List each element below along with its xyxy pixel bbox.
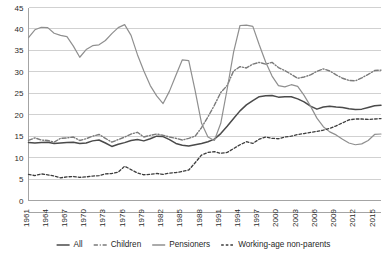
series-line	[29, 119, 382, 178]
x-tick-label: 1997	[252, 209, 261, 227]
y-tick-label: 35	[15, 46, 24, 55]
y-tick-label: 5	[19, 175, 24, 184]
x-tick-label: 1964	[41, 209, 50, 227]
axis-lines	[29, 8, 382, 213]
x-tick-label: 2009	[329, 209, 338, 227]
series-line	[29, 25, 382, 145]
x-tick-label: 1976	[118, 209, 127, 227]
x-tick-label: 2012	[348, 209, 357, 227]
x-tick-label: 2006	[310, 209, 319, 227]
x-tick-label: 2015	[368, 209, 377, 227]
x-tick-label: 1970	[79, 209, 88, 227]
x-tick-label: 2000	[271, 209, 280, 227]
y-tick-label: 10	[15, 154, 24, 163]
x-tick-label: 1982	[156, 209, 165, 227]
x-tick-label: 1967	[60, 209, 69, 227]
x-tick-label: 1973	[98, 209, 107, 227]
chart-container: 051015202530354045 196119641967197019731…	[0, 0, 387, 259]
y-axis-tick-labels: 051015202530354045	[15, 4, 24, 206]
x-axis-tick-labels: 1961196419671970197319761979198219851988…	[22, 209, 377, 227]
y-tick-label: 45	[15, 4, 24, 13]
x-tick-label: 1979	[137, 209, 146, 227]
chart-legend: AllChildrenPensionersWorking-age non-par…	[57, 240, 331, 249]
x-tick-label: 1961	[22, 209, 31, 227]
y-tick-label: 20	[15, 111, 24, 120]
legend-label: Pensioners	[169, 240, 210, 249]
x-tick-label: 1994	[233, 209, 242, 227]
y-tick-label: 30	[15, 68, 24, 77]
y-tick-label: 15	[15, 132, 24, 141]
data-series	[29, 25, 382, 178]
y-tick-label: 25	[15, 89, 24, 98]
x-tick-label: 1988	[195, 209, 204, 227]
x-tick-label: 1985	[175, 209, 184, 227]
legend-label: All	[74, 240, 83, 249]
x-tick-label: 2003	[291, 209, 300, 227]
y-tick-label: 40	[15, 25, 24, 34]
legend-label: Children	[111, 240, 142, 249]
y-tick-label: 0	[19, 197, 24, 206]
x-tick-label: 1991	[214, 209, 223, 227]
line-chart: 051015202530354045 196119641967197019731…	[0, 0, 387, 259]
legend-label: Working-age non-parents	[238, 240, 330, 249]
